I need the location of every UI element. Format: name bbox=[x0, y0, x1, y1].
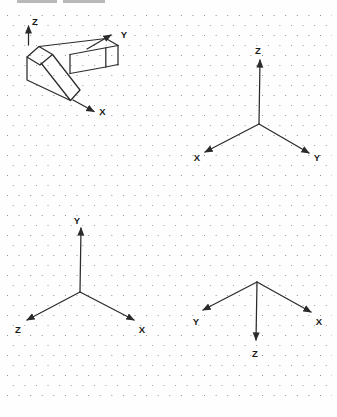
triad-lower-left bbox=[27, 228, 134, 320]
figure-canvas: Z Y X Z X Y Y Z X Y X Z bbox=[0, 0, 337, 417]
y-axis-arrow bbox=[80, 228, 81, 292]
x-axis-arrow bbox=[80, 292, 134, 320]
z-axis-label: Z bbox=[255, 45, 261, 56]
y-axis-arrow bbox=[203, 282, 257, 310]
object-z-axis-label: Z bbox=[32, 16, 38, 27]
z-axis-arrow bbox=[259, 60, 260, 124]
x-axis-arrow bbox=[205, 124, 259, 152]
axis-labels: Z Y X Z X Y Y Z X Y X Z bbox=[15, 16, 323, 359]
x-axis-arrow bbox=[257, 282, 311, 312]
object-bar-front-top-edge bbox=[70, 46, 118, 55]
object-x-axis-label: X bbox=[99, 106, 106, 117]
y-axis-label: Y bbox=[314, 152, 321, 163]
z-axis-label: Z bbox=[15, 324, 21, 335]
object-y-axis-label: Y bbox=[121, 29, 128, 40]
x-axis-label: X bbox=[316, 316, 323, 327]
object-x-axis-arrow bbox=[73, 100, 94, 112]
y-axis-arrow bbox=[259, 124, 309, 153]
x-axis-label: X bbox=[139, 324, 146, 335]
z-axis-arrow bbox=[256, 282, 257, 340]
object-inclined-brace bbox=[41, 55, 80, 101]
z-axis-arrow bbox=[27, 292, 80, 320]
object-left-face-edges bbox=[27, 57, 71, 101]
x-axis-label: X bbox=[194, 152, 201, 163]
object-bar-bottom-edges bbox=[70, 65, 118, 74]
triad-upper-right bbox=[205, 60, 309, 153]
object-column-top-face bbox=[27, 47, 53, 66]
figure-linework: Z Y X Z X Y Y Z X Y X Z bbox=[0, 0, 337, 417]
object-bar-top-edges bbox=[39, 39, 118, 47]
isometric-object bbox=[27, 39, 118, 101]
y-axis-label: Y bbox=[193, 316, 200, 327]
triad-lower-right bbox=[203, 282, 311, 340]
z-axis-label: Z bbox=[252, 348, 258, 359]
y-axis-label: Y bbox=[74, 215, 81, 226]
